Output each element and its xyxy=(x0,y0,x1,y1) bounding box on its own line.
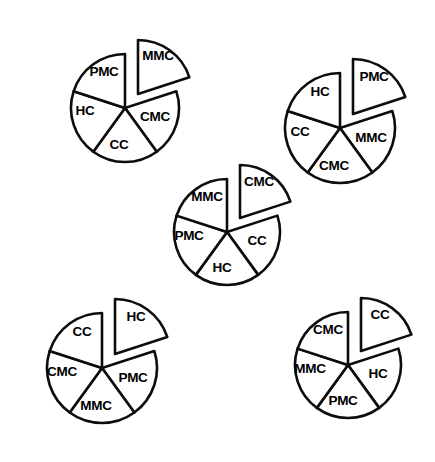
pie-slice-hc-exploded xyxy=(115,299,167,354)
slice-label-cc: CC xyxy=(73,324,92,339)
slice-label-hc: HC xyxy=(127,309,146,324)
slice-label-mmc: MMC xyxy=(142,48,174,63)
slice-label-cmc: CMC xyxy=(47,364,77,379)
chart-bottom-left: HCPMCMMCCMCCC xyxy=(47,299,167,423)
slice-label-cc: CC xyxy=(291,124,310,139)
slice-label-pmc: PMC xyxy=(328,393,358,408)
slice-label-cmc: CMC xyxy=(244,174,274,189)
slice-label-hc: HC xyxy=(213,260,232,275)
slice-label-mmc: MMC xyxy=(80,398,112,413)
slice-label-hc: HC xyxy=(311,84,330,99)
slice-label-pmc: PMC xyxy=(89,64,119,79)
slice-label-cc: CC xyxy=(110,137,129,152)
chart-top-left: MMCCMCCCHCPMC xyxy=(71,40,189,162)
chart-center: CMCCCHCPMCMMC xyxy=(174,165,290,285)
slice-label-hc: HC xyxy=(369,366,388,381)
charts-layer: MMCCMCCCHCPMCPMCMMCCMCCCHCCMCCCHCPMCMMCH… xyxy=(47,40,411,423)
pie-chart-figure-canvas: MMCCMCCCHCPMCPMCMMCCMCCCHCCMCCCHCPMCMMCH… xyxy=(0,0,435,462)
chart-bottom-right: CCHCPMCMMCCMC xyxy=(294,298,411,418)
slice-label-pmc: PMC xyxy=(359,69,389,84)
slice-label-cmc: CMC xyxy=(319,158,349,173)
slice-label-pmc: PMC xyxy=(118,370,148,385)
slice-label-cc: CC xyxy=(248,233,267,248)
slice-label-mmc: MMC xyxy=(355,130,387,145)
slice-label-pmc: PMC xyxy=(174,228,204,243)
slice-label-mmc: MMC xyxy=(294,361,326,376)
slice-label-mmc: MMC xyxy=(191,189,223,204)
pie-slice-pmc-exploded xyxy=(353,59,405,114)
slice-label-cmc: CMC xyxy=(313,322,343,337)
chart-top-right: PMCMMCCMCCCHC xyxy=(285,59,405,183)
slice-label-cc: CC xyxy=(371,307,390,322)
figure-root: MMCCMCCCHCPMCPMCMMCCMCCCHCCMCCCHCPMCMMCH… xyxy=(0,0,435,462)
slice-label-cmc: CMC xyxy=(140,109,170,124)
slice-label-hc: HC xyxy=(76,103,95,118)
